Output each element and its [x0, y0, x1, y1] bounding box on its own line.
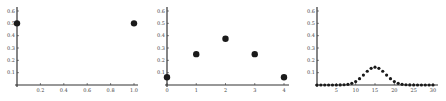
data-point — [377, 67, 380, 70]
x-tick-label: 25 — [410, 87, 416, 93]
y-tick-label: 0.2 — [307, 57, 315, 63]
y-tick-label: 0.5 — [307, 20, 315, 26]
y-tick-label: 0.1 — [307, 69, 315, 75]
x-tick-label: 1 — [195, 87, 198, 93]
data-point — [339, 83, 342, 86]
data-point — [373, 66, 376, 69]
chart-uniform-two-point: 0.10.20.30.40.50.60.20.40.60.81.0 — [7, 7, 138, 93]
x-tick-label: 2 — [224, 87, 227, 93]
data-point — [393, 80, 396, 83]
x-tick-label: 20 — [391, 87, 397, 93]
y-tick-label: 0.3 — [307, 45, 315, 51]
x-tick-label: 0 — [165, 87, 168, 93]
data-point — [358, 77, 361, 80]
data-point — [354, 80, 357, 83]
x-tick-label: 0.2 — [36, 87, 44, 93]
x-tick-label: 0.4 — [60, 87, 68, 93]
y-tick-label: 0.6 — [307, 8, 315, 14]
x-tick-label: 0.8 — [107, 87, 115, 93]
data-point — [424, 83, 427, 86]
data-point — [397, 82, 400, 85]
y-tick-label: 0.4 — [7, 32, 15, 38]
x-tick-label: 10 — [352, 87, 358, 93]
data-point — [362, 73, 365, 76]
y-tick-label: 0.2 — [7, 57, 15, 63]
data-point — [193, 51, 199, 57]
data-point — [335, 83, 338, 86]
y-tick-label: 0.5 — [157, 20, 165, 26]
x-tick-label: 1.0 — [130, 87, 138, 93]
data-point — [319, 83, 322, 86]
y-tick-label: 0.4 — [307, 32, 315, 38]
data-point — [14, 20, 20, 26]
data-point — [323, 83, 326, 86]
y-tick-label: 0.1 — [157, 69, 165, 75]
x-tick-label: 0.6 — [83, 87, 91, 93]
data-point — [416, 83, 419, 86]
data-point — [366, 70, 369, 73]
x-tick-label: 3 — [253, 87, 256, 93]
y-tick-label: 0.1 — [7, 69, 15, 75]
x-tick-label: 15 — [372, 87, 378, 93]
y-tick-label: 0.6 — [7, 8, 15, 14]
data-point — [404, 83, 407, 86]
data-point — [346, 83, 349, 86]
x-tick-label: 5 — [335, 87, 338, 93]
data-point — [315, 83, 318, 86]
y-tick-label: 0.6 — [157, 8, 165, 14]
y-tick-label: 0.4 — [157, 32, 165, 38]
data-point — [370, 67, 373, 70]
data-point — [331, 83, 334, 86]
y-tick-label: 0.3 — [7, 45, 15, 51]
data-point — [431, 83, 434, 86]
data-point — [385, 73, 388, 76]
data-point — [408, 83, 411, 86]
chart-binomial-n30: 0.10.20.30.40.50.651015202530 — [307, 7, 438, 93]
data-point — [281, 74, 287, 80]
data-point — [389, 77, 392, 80]
data-point — [164, 74, 170, 80]
data-point — [381, 70, 384, 73]
data-point — [420, 83, 423, 86]
x-tick-label: 30 — [430, 87, 436, 93]
data-point — [131, 20, 137, 26]
y-tick-label: 0.3 — [157, 45, 165, 51]
data-point — [350, 82, 353, 85]
y-tick-label: 0.2 — [157, 57, 165, 63]
data-point — [428, 83, 431, 86]
data-point — [342, 83, 345, 86]
data-point — [400, 83, 403, 86]
chart-binomial-n4: 0.10.20.30.40.50.601234 — [157, 7, 289, 93]
data-point — [327, 83, 330, 86]
data-point — [222, 36, 228, 42]
x-tick-label: 4 — [282, 87, 285, 93]
plots-container: 0.10.20.30.40.50.60.20.40.60.81.0 0.10.2… — [0, 0, 446, 101]
data-point — [412, 83, 415, 86]
data-point — [252, 51, 258, 57]
